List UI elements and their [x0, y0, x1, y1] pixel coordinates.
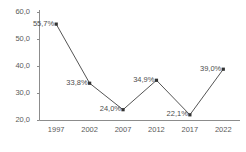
data-point-marker[interactable]: [55, 23, 58, 26]
data-point-marker[interactable]: [222, 68, 225, 71]
x-axis-tick-label: 2007: [108, 126, 138, 134]
data-point-label: 33,8%: [57, 79, 88, 87]
data-point-label: 24,0%: [90, 105, 121, 113]
x-axis-tick-label: 2022: [208, 126, 238, 134]
data-point-label: 22,1%: [157, 110, 188, 118]
data-point-marker[interactable]: [188, 113, 191, 116]
data-point-marker[interactable]: [88, 82, 91, 85]
x-axis-tick-label: 1997: [41, 126, 71, 134]
x-axis-tick-label: 2002: [75, 126, 105, 134]
y-axis-tick-label: 20,0: [4, 116, 30, 124]
line-chart: 20,030,040,050,060,0 1997200220072012201…: [0, 0, 246, 152]
y-axis-tick-label: 50,0: [4, 35, 30, 43]
data-point-marker[interactable]: [121, 108, 124, 111]
x-axis-tick-label: 2012: [141, 126, 171, 134]
data-point-label: 55,7%: [23, 20, 54, 28]
y-axis-tick-label: 40,0: [4, 62, 30, 70]
x-axis-tick-label: 2017: [175, 126, 205, 134]
data-point-label: 34,9%: [123, 76, 154, 84]
data-point-label: 39,0%: [190, 65, 221, 73]
y-axis-tick-label: 60,0: [4, 8, 30, 16]
data-point-marker[interactable]: [155, 79, 158, 82]
y-axis-tick-label: 30,0: [4, 89, 30, 97]
